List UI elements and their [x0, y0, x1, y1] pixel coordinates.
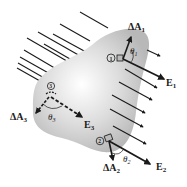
svg-text:θ2: θ2	[123, 154, 130, 165]
svg-text:3: 3	[49, 83, 52, 89]
svg-text:E2: E2	[156, 161, 167, 174]
svg-text:ΔA3: ΔA3	[10, 111, 28, 124]
gauss-surface-diagram: 1 ΔA1 θ1 E1 3 ΔA3 θ3 E3 2 ΔA2 θ2 E2	[0, 0, 187, 187]
svg-text:E1: E1	[166, 77, 177, 90]
area-element-2: 2 ΔA2 θ2 E2	[96, 134, 166, 175]
svg-text:2: 2	[98, 138, 101, 144]
svg-text:ΔA2: ΔA2	[103, 162, 121, 175]
svg-text:1: 1	[110, 56, 113, 62]
patch-1-square	[117, 55, 123, 61]
